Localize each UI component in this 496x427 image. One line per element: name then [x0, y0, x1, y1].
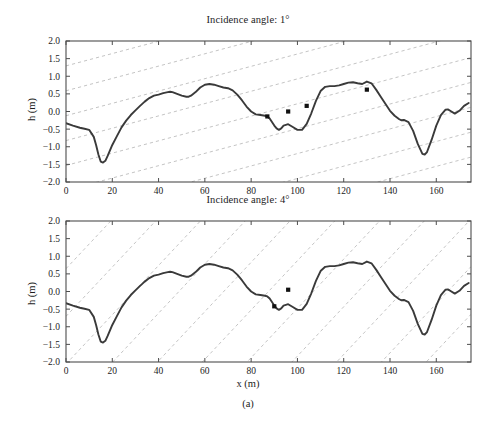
svg-text:100: 100 — [290, 366, 305, 376]
svg-text:−1.0: −1.0 — [43, 142, 60, 152]
svg-text:1.0: 1.0 — [48, 252, 60, 262]
svg-text:−1.5: −1.5 — [43, 340, 60, 350]
svg-text:0.0: 0.0 — [48, 287, 60, 297]
plot-svg: −2.0−1.5−1.0−0.50.00.51.01.52.0020406080… — [0, 194, 496, 384]
plot-svg: −2.0−1.5−1.0−0.50.00.51.01.52.0020406080… — [0, 14, 496, 204]
svg-text:−1.5: −1.5 — [43, 160, 60, 170]
x-axis-label: x (m) — [0, 378, 496, 389]
svg-text:−2.0: −2.0 — [43, 357, 60, 367]
svg-text:−0.5: −0.5 — [43, 305, 60, 315]
svg-text:−2.0: −2.0 — [43, 177, 60, 187]
plot-area-wrapper: −2.0−1.5−1.0−0.50.00.51.01.52.0020406080… — [0, 194, 496, 384]
svg-text:1.5: 1.5 — [48, 54, 60, 64]
svg-text:0.5: 0.5 — [48, 269, 60, 279]
chart-panel-incidence-4: Incidence angle: 4° −2.0−1.5−1.0−0.50.00… — [0, 194, 496, 384]
svg-text:60: 60 — [200, 366, 210, 376]
svg-text:−1.0: −1.0 — [43, 322, 60, 332]
svg-text:20: 20 — [108, 366, 118, 376]
svg-text:80: 80 — [246, 366, 256, 376]
svg-text:2.0: 2.0 — [48, 36, 60, 46]
svg-text:1.5: 1.5 — [48, 234, 60, 244]
svg-text:160: 160 — [429, 366, 444, 376]
svg-text:120: 120 — [337, 366, 352, 376]
figure-subcaption: (a) — [0, 398, 496, 409]
figure-container: Incidence angle: 1° −2.0−1.5−1.0−0.50.00… — [0, 0, 496, 427]
plot-area-wrapper: −2.0−1.5−1.0−0.50.00.51.01.52.0020406080… — [0, 14, 496, 204]
svg-text:−0.5: −0.5 — [43, 125, 60, 135]
svg-text:0: 0 — [64, 366, 69, 376]
svg-text:140: 140 — [383, 366, 398, 376]
svg-text:0.0: 0.0 — [48, 107, 60, 117]
y-axis-label: h (m) — [26, 274, 37, 314]
chart-panel-incidence-1: Incidence angle: 1° −2.0−1.5−1.0−0.50.00… — [0, 14, 496, 204]
y-axis-label: h (m) — [26, 90, 37, 130]
svg-text:1.0: 1.0 — [48, 72, 60, 82]
svg-text:40: 40 — [154, 366, 164, 376]
svg-text:2.0: 2.0 — [48, 216, 60, 226]
svg-text:0.5: 0.5 — [48, 89, 60, 99]
